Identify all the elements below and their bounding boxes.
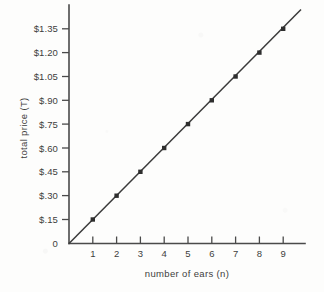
data-point: [138, 170, 142, 174]
y-tick-label: $1.35: [34, 23, 58, 34]
data-point: [91, 217, 95, 221]
y-tick-label: $.75: [39, 119, 58, 130]
data-point: [257, 50, 261, 54]
line-chart: $1.35 $1.20 $1.05 $.90 $.75 $.60 $.45 $.…: [0, 0, 324, 292]
y-tick-label: $.45: [39, 166, 58, 177]
y-tick-label: $1.20: [34, 47, 58, 58]
x-tick-label: 4: [162, 248, 167, 259]
y-axis-tick-labels: $1.35 $1.20 $1.05 $.90 $.75 $.60 $.45 $.…: [34, 23, 58, 249]
x-axis-tick-labels: 1 2 3 4 5 6 7 8 9: [90, 248, 286, 259]
chart-container: $1.35 $1.20 $1.05 $.90 $.75 $.60 $.45 $.…: [0, 0, 324, 292]
y-tick-label: $.15: [39, 214, 58, 225]
data-point: [233, 74, 237, 78]
data-point: [281, 27, 285, 31]
data-point: [210, 98, 214, 102]
x-axis-ticks: [93, 237, 283, 244]
x-tick-label: 9: [281, 248, 286, 259]
data-point: [162, 146, 166, 150]
y-tick-label: $.90: [39, 95, 58, 106]
y-tick-label: $.60: [39, 143, 58, 154]
x-tick-label: 3: [138, 248, 143, 259]
series-line-total-price: [69, 10, 301, 244]
y-axis-ticks: [62, 29, 69, 220]
data-point: [186, 122, 190, 126]
x-axis-title: number of ears (n): [145, 268, 229, 279]
y-tick-label: $.30: [39, 190, 58, 201]
y-axis-title: total price (T): [18, 97, 29, 158]
data-point: [114, 194, 118, 198]
y-axis-origin-label: 0: [53, 238, 58, 249]
y-tick-label: $1.05: [34, 71, 58, 82]
x-tick-label: 7: [233, 248, 238, 259]
x-tick-label: 2: [114, 248, 119, 259]
x-tick-label: 5: [185, 248, 190, 259]
x-tick-label: 6: [209, 248, 214, 259]
x-tick-label: 8: [257, 248, 262, 259]
x-tick-label: 1: [90, 248, 95, 259]
